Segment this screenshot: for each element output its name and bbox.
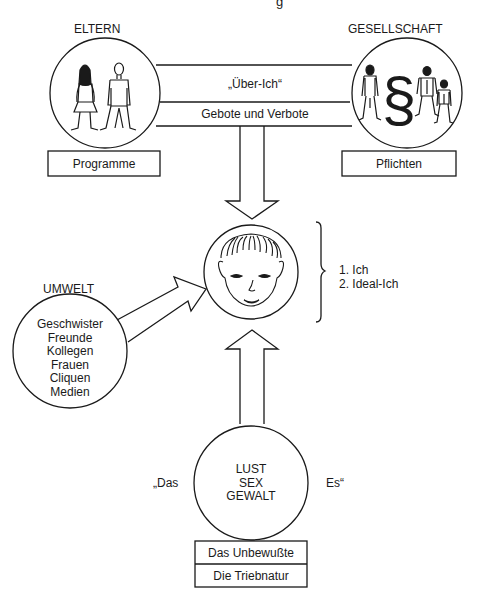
paragraph-section-icon: § — [382, 64, 416, 133]
parents-figures-icon — [71, 63, 136, 130]
title-fragment: g — [276, 0, 283, 9]
psyche-diagram: g — [0, 0, 478, 606]
ego-list: 1. Ich 2. Ideal-Ich — [339, 264, 398, 291]
id-quote-left: „Das — [153, 477, 178, 489]
id-drive-item: SEX — [200, 477, 302, 491]
ego-item: 2. Ideal-Ich — [339, 278, 398, 292]
environment-list: Geschwister Freunde Kollegen Frauen Cliq… — [13, 318, 127, 399]
drive-nature-label: Die Triebnatur — [195, 570, 307, 582]
arrow-id-to-ego — [226, 330, 278, 424]
superego-subtitle: Gebote und Verbote — [160, 108, 350, 120]
environment-item: Frauen — [13, 359, 127, 373]
programme-label: Programme — [48, 158, 160, 170]
id-drive-item: GEWALT — [200, 490, 302, 504]
arrow-environment-to-ego — [117, 277, 206, 342]
environment-item: Cliquen — [13, 372, 127, 386]
id-quote-right: Es“ — [326, 477, 344, 489]
parents-label: ELTERN — [74, 23, 120, 35]
pflichten-label: Pflichten — [342, 158, 456, 170]
id-drive-item: LUST — [200, 463, 302, 477]
parents-circle — [50, 38, 160, 148]
arrow-superego-to-ego — [226, 126, 278, 219]
environment-item: Freunde — [13, 332, 127, 346]
child-face-icon — [219, 234, 284, 306]
unconscious-label: Das Unbewußte — [195, 547, 307, 559]
environment-label: UMWELT — [43, 283, 94, 295]
ego-brace — [316, 222, 325, 322]
ego-circle — [204, 225, 298, 319]
ego-item: 1. Ich — [339, 264, 398, 278]
society-label: GESELLSCHAFT — [348, 23, 443, 35]
id-drives-list: LUST SEX GEWALT — [200, 463, 302, 504]
environment-item: Kollegen — [13, 345, 127, 359]
environment-item: Geschwister — [13, 318, 127, 332]
superego-title: „Über-Ich“ — [160, 78, 350, 90]
environment-item: Medien — [13, 386, 127, 400]
